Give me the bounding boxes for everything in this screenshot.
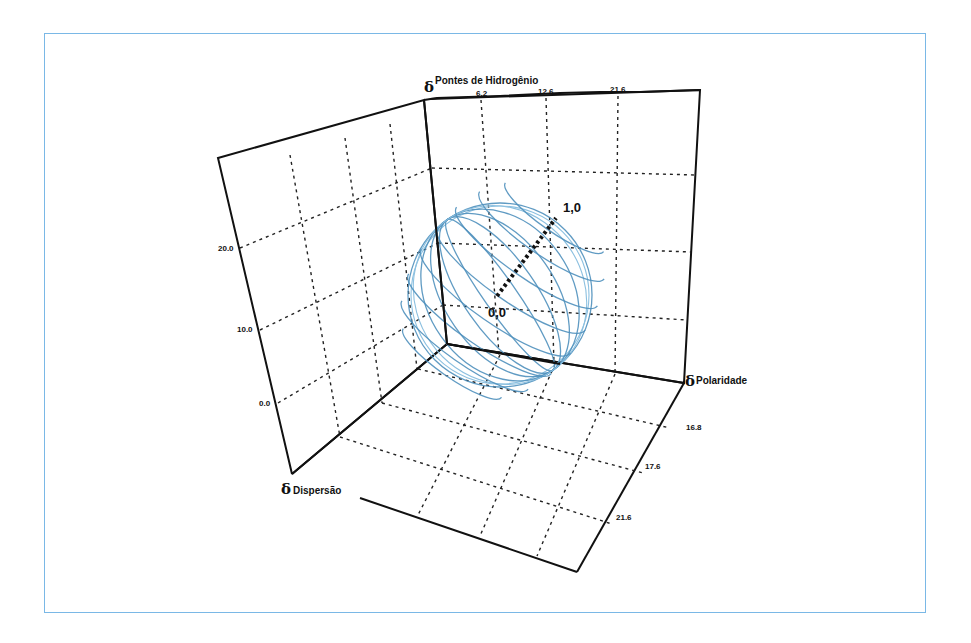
left-wall — [218, 100, 447, 474]
z-tick: 6.2 — [476, 89, 488, 98]
z-tick: 21.6 — [610, 85, 626, 94]
floor-grid — [537, 374, 615, 556]
floor-grid — [480, 364, 555, 536]
x-axis-name: Dispersão — [293, 485, 341, 496]
delta-symbol: δ — [424, 78, 434, 96]
floor-front-edge — [360, 498, 577, 572]
left-wall-outline — [218, 100, 447, 474]
back-wall-top-edge — [430, 90, 700, 99]
floor — [292, 344, 684, 572]
y-tick: 17.6 — [645, 462, 661, 471]
floor-grid — [418, 369, 670, 428]
hansen-sphere-3d-chart: 0,0 1,0 20.0 10.0 0.0 6.2 12.6 21.6 16.8… — [0, 0, 971, 643]
back-wall-grid-h — [443, 305, 687, 320]
y-axis-name: Polaridade — [696, 375, 748, 386]
y-tick: 16.8 — [686, 423, 702, 432]
back-wall-grid-h — [432, 168, 696, 175]
left-wall-grid-v — [290, 155, 340, 437]
delta-symbol: δ — [685, 372, 695, 390]
left-wall-grid-v — [345, 138, 382, 403]
sphere-center-label: 0,0 — [488, 305, 506, 320]
floor-left-edge — [292, 344, 447, 474]
x-axis-label: δ Dispersão — [281, 480, 341, 498]
floor-right-edge — [577, 383, 684, 572]
v-tick: 20.0 — [218, 244, 234, 253]
left-wall-grid-v — [390, 124, 417, 369]
sphere-radius-label: 1,0 — [563, 200, 581, 215]
z-tick: 12.6 — [538, 87, 554, 96]
left-wall-grid-h — [240, 168, 432, 248]
hansen-sphere: 0,0 1,0 — [370, 165, 629, 427]
z-axis-name: Pontes de Hidrogênio — [435, 75, 538, 86]
back-wall-grid-h — [438, 243, 691, 252]
delta-symbol: δ — [281, 480, 291, 498]
back-wall-grid-v — [615, 96, 618, 374]
y-tick: 21.6 — [616, 513, 632, 522]
v-tick: 0.0 — [259, 399, 271, 408]
v-tick: 10.0 — [237, 325, 253, 334]
floor-grid — [340, 437, 612, 524]
y-axis-label: δ Polaridade — [685, 372, 748, 390]
